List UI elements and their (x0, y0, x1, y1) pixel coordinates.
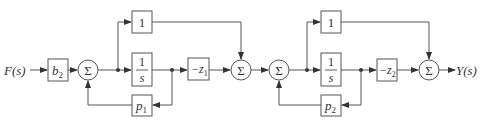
svg-text:s: s (140, 71, 145, 85)
wire-branch-one2 (307, 22, 320, 70)
svg-text:1: 1 (139, 55, 145, 69)
block-integrator-1: 1 s (132, 53, 152, 86)
summing-junction-3: Σ (269, 60, 289, 80)
wire-feedback-p2 (342, 70, 361, 105)
block-p2: p2 (321, 95, 341, 116)
block-neg-z1: −z1 (188, 58, 209, 80)
wire-branch-one1 (118, 22, 131, 70)
summing-junction-1: Σ (78, 60, 98, 80)
wire-one1-sum2 (152, 22, 241, 59)
wire-p2-sum3 (279, 81, 321, 105)
wire-one2-sum4 (341, 22, 429, 59)
block-neg-z2: −z2 (377, 59, 397, 81)
svg-text:1: 1 (328, 55, 334, 69)
block-integrator-2: 1 s (321, 53, 341, 86)
wire-feedback-p1 (153, 70, 172, 105)
svg-text:Σ: Σ (275, 63, 283, 78)
block-unity-1: 1 (132, 11, 152, 33)
wire-p1-sum1 (88, 81, 132, 105)
svg-text:1: 1 (328, 15, 335, 30)
block-p1: p1 (132, 95, 152, 116)
block-unity-2: 1 (321, 11, 341, 33)
svg-text:Σ: Σ (237, 63, 245, 78)
svg-text:1: 1 (139, 15, 146, 30)
svg-text:Σ: Σ (84, 63, 92, 78)
summing-junction-2: Σ (231, 60, 251, 80)
input-label: F(s) (3, 63, 26, 78)
svg-text:s: s (329, 71, 334, 85)
output-label: Y(s) (456, 63, 477, 78)
summing-junction-4: Σ (419, 60, 439, 80)
block-diagram: F(s) b2 Σ 1 1 s p1 −z1 (0, 0, 482, 123)
svg-text:Σ: Σ (425, 63, 433, 78)
block-b2: b2 (48, 59, 68, 81)
